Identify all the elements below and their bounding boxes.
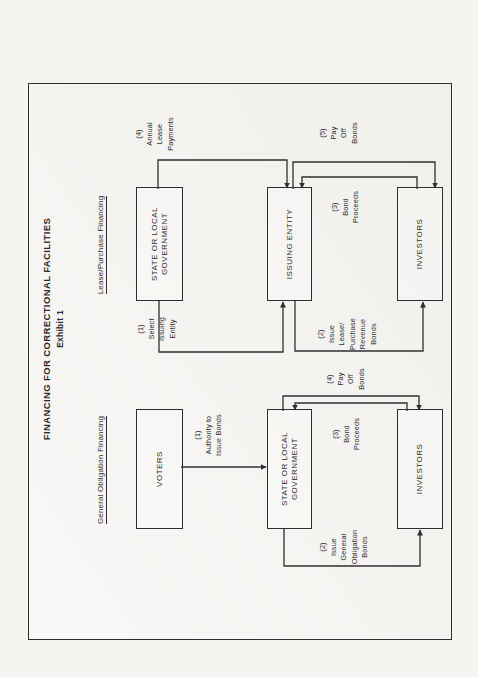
arrow-lease-annual-payments [158, 160, 287, 189]
rotated-diagram-sheet: FINANCING FOR CORRECTIONAL FACILITIES Ex… [0, 0, 478, 677]
arrow-lease-select [159, 301, 283, 352]
scanned-page: FINANCING FOR CORRECTIONAL FACILITIES Ex… [0, 0, 478, 677]
arrow-lease-issue-bonds [295, 301, 423, 351]
arrow-lease-bond-proceeds [302, 177, 417, 189]
arrow-lease-pay-off [293, 162, 435, 189]
arrow-go-bond-proceeds [295, 403, 407, 411]
arrow-go-issue-bonds [284, 529, 420, 566]
diagram-arrows [0, 0, 478, 677]
